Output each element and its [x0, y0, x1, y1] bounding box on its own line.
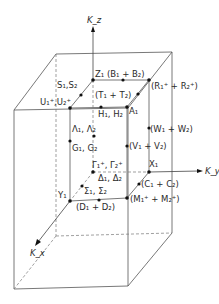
point-T	[136, 92, 139, 95]
label-R: (R₁⁺ + R₂⁺)	[151, 81, 198, 91]
kz-arrow-icon	[91, 26, 95, 32]
label-Y: Y₁	[57, 190, 67, 200]
brillouin-zone-diagram: K_z K_y K_x Z₁ (B₁ + B₂) (R₁⁺ + R₂⁺) (T₁…	[0, 0, 219, 304]
label-Lambda: Λ₁, Λ₂	[72, 124, 96, 134]
label-A: A₁	[129, 106, 138, 116]
label-W: (W₁ + W₂)	[150, 124, 193, 134]
point-Gamma	[91, 170, 95, 174]
ky-label: K_y	[205, 166, 219, 176]
label-Z: Z₁ (B₁ + B₂)	[95, 69, 145, 79]
kx-label: K_x	[30, 248, 46, 258]
axes	[35, 26, 203, 246]
labels: K_z K_y K_x Z₁ (B₁ + B₂) (R₁⁺ + R₂⁺) (T₁…	[30, 15, 219, 258]
label-Gamma: Γ₁⁺, Γ₂⁺	[92, 160, 123, 170]
label-T: (T₁ + T₂)	[95, 90, 131, 100]
label-D: (D₁ + D₂)	[76, 202, 115, 212]
kz-label: K_z	[87, 15, 102, 25]
point-Y	[68, 199, 72, 203]
label-X: X₁	[149, 159, 158, 169]
label-G: G₁, G₂	[72, 143, 97, 153]
point-X	[147, 170, 151, 174]
ky-arrow-icon	[197, 169, 203, 173]
kx-axis	[38, 201, 70, 242]
label-S: S₁,S₂	[57, 80, 77, 90]
ky-axis	[149, 171, 199, 172]
label-Sigma: Σ₁, Σ₂	[84, 186, 107, 196]
point-Lambda	[92, 134, 95, 137]
outer-back-bottom-hidden-edge	[56, 233, 172, 236]
label-C: (C₁ + C₂)	[141, 179, 179, 189]
kx-arrow-icon	[35, 239, 41, 246]
point-M	[125, 196, 129, 200]
label-H: H₁, H₂	[98, 109, 123, 119]
outer-left-bottom-hidden-edge	[14, 236, 56, 289]
label-U: U₁⁺,U₂⁺	[40, 97, 71, 107]
label-V: (V₁ + V₂)	[129, 141, 167, 151]
point-S	[79, 93, 82, 96]
label-Delta: Δ₁, Δ₂	[98, 173, 122, 183]
label-M: (M₁⁺ + M₂⁺)	[130, 194, 180, 204]
